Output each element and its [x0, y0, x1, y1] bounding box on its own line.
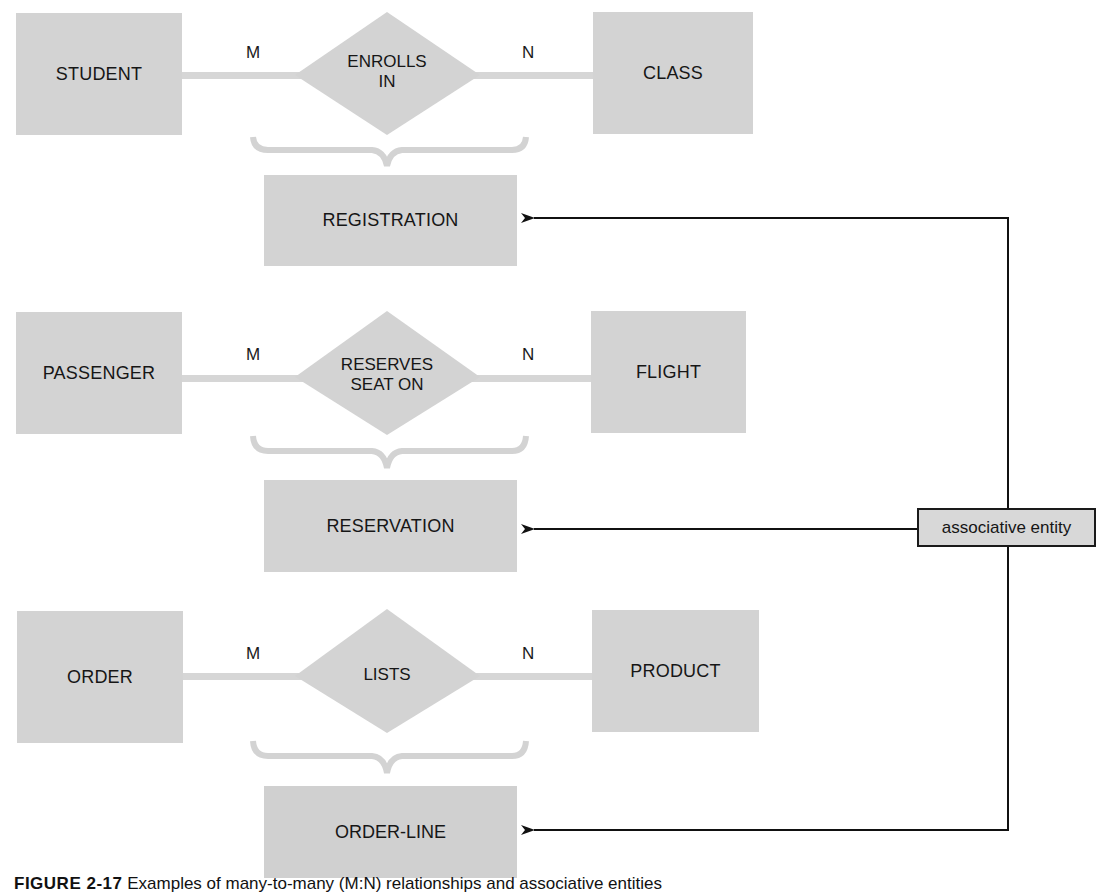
cardinality-right: N [522, 43, 534, 63]
entity-label: PASSENGER [43, 363, 156, 384]
entity-passenger: PASSENGER [16, 312, 182, 434]
entity-label: CLASS [643, 63, 703, 84]
row-3-graphics [183, 609, 593, 773]
relationship-label: ENROLLS IN [317, 52, 457, 92]
relationship-label: LISTS [317, 665, 457, 685]
relationship-line-1: LISTS [317, 665, 457, 685]
cardinality-left: M [246, 43, 260, 63]
entity-label: ORDER-LINE [335, 822, 446, 843]
associative-entity-registration: REGISTRATION [264, 175, 517, 266]
relationship-line-2: SEAT ON [317, 375, 457, 395]
entity-order: ORDER [17, 611, 183, 743]
entity-label: REGISTRATION [322, 210, 458, 231]
entity-label: STUDENT [56, 64, 142, 85]
entity-label: RESERVATION [326, 516, 454, 537]
brace-icon [253, 741, 526, 773]
entity-class: CLASS [593, 12, 753, 134]
relationship-line-1: RESERVES [317, 355, 457, 375]
relationship-line-1: ENROLLS [317, 52, 457, 72]
associative-entity-order-line: ORDER-LINE [264, 786, 517, 878]
entity-label: ORDER [67, 667, 133, 688]
cardinality-left: M [246, 345, 260, 365]
figure-caption: FIGURE 2-17 Examples of many-to-many (M:… [14, 874, 662, 894]
relationship-line-2: IN [317, 72, 457, 92]
caption-text: Examples of many-to-many (M:N) relations… [127, 874, 662, 893]
entity-label: PRODUCT [630, 661, 720, 682]
cardinality-right: N [522, 345, 534, 365]
entity-product: PRODUCT [592, 610, 759, 732]
brace-icon [253, 137, 526, 166]
cardinality-right: N [522, 644, 534, 664]
callout-text: associative entity [942, 518, 1071, 538]
entity-student: STUDENT [16, 13, 182, 135]
entity-flight: FLIGHT [591, 311, 746, 433]
associative-entity-reservation: RESERVATION [264, 480, 517, 572]
entity-label: FLIGHT [636, 362, 701, 383]
brace-icon [253, 436, 526, 468]
associative-entity-callout: associative entity [917, 508, 1096, 547]
cardinality-left: M [246, 644, 260, 664]
relationship-label: RESERVES SEAT ON [317, 355, 457, 395]
figure-number: FIGURE 2-17 [14, 874, 122, 893]
